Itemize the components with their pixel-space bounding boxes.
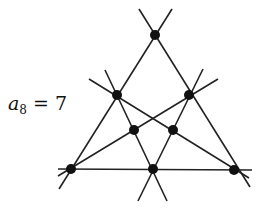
point-left-mid xyxy=(112,90,122,100)
points xyxy=(66,30,239,175)
point-bottom-left xyxy=(66,164,76,174)
line-left-cevian xyxy=(105,70,167,201)
point-bottom-right xyxy=(229,165,239,175)
point-bottom-mid xyxy=(148,164,158,174)
point-top xyxy=(150,30,160,40)
point-inner-left xyxy=(129,125,139,135)
point-right-mid xyxy=(184,90,194,100)
line-right-cevian xyxy=(138,69,203,201)
point-inner-right xyxy=(168,125,178,135)
line-arrangement-diagram xyxy=(0,0,264,212)
